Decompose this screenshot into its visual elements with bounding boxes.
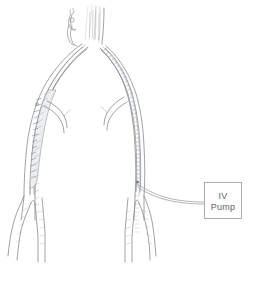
upper-side-branches	[44, 97, 127, 133]
right-catheter-entry-marker	[136, 181, 139, 184]
lower-bifurcations	[8, 196, 156, 262]
left-lesion-shading	[30, 90, 56, 188]
anatomy-illustration: IV Pump	[0, 0, 256, 283]
catheter-hook	[68, 8, 78, 46]
right-iliac-vessel	[100, 46, 145, 220]
figure-root: IV Pump	[0, 0, 256, 283]
aorta-trunk	[85, 5, 104, 44]
catheter-rungs	[103, 49, 140, 186]
iv-pump[interactable]: IV Pump	[205, 183, 242, 219]
iv-pump-label-line2: Pump	[211, 202, 235, 212]
iv-pump-label-line1: IV	[219, 191, 228, 201]
left-iliac-vessel	[21, 44, 88, 220]
